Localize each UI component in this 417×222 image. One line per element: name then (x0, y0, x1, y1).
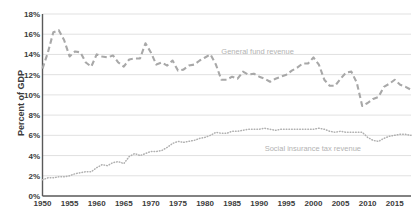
x-tick-label: 1965 (115, 199, 133, 208)
cropped-caption-text (30, 215, 360, 222)
x-tick-label: 1995 (277, 199, 295, 208)
chart-plot-area (0, 0, 417, 222)
x-tick-label: 1975 (169, 199, 187, 208)
series-label-social-insurance-tax-revenue: Social insurance tax revenue (265, 144, 361, 153)
x-tick-label: 1985 (223, 199, 241, 208)
x-tick-label: 1970 (142, 199, 160, 208)
chart-container: Percent of GDP 0%2%4%6%8%10%12%14%16%18%… (0, 0, 417, 222)
x-tick-label: 2010 (359, 199, 377, 208)
axis-lines (43, 14, 412, 196)
series-label-general-fund-revenue: General fund revenue (221, 47, 294, 56)
x-axis-tick-labels: 1950195519601965197019751980198519901995… (0, 199, 417, 213)
x-tick-label: 2005 (332, 199, 350, 208)
x-tick-label: 1980 (196, 199, 214, 208)
series-line-social-insurance-tax-revenue (43, 128, 412, 180)
x-tick-label: 1960 (88, 199, 106, 208)
x-tick-label: 2015 (386, 199, 404, 208)
x-tick-label: 1955 (61, 199, 79, 208)
x-tick-label: 1950 (34, 199, 52, 208)
x-tick-label: 1990 (250, 199, 268, 208)
x-tick-label: 2000 (305, 199, 323, 208)
